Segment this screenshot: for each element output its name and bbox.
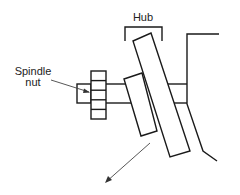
hub-label: Hub <box>133 11 153 23</box>
spindle-nut <box>91 71 106 119</box>
wheel-hub-diagram: Hub Spindle nut <box>0 0 240 195</box>
spindle-end <box>77 84 91 103</box>
spindle-nut-label-line2: nut <box>25 76 40 88</box>
direction-arrow <box>105 143 150 183</box>
steering-knuckle <box>187 34 219 161</box>
